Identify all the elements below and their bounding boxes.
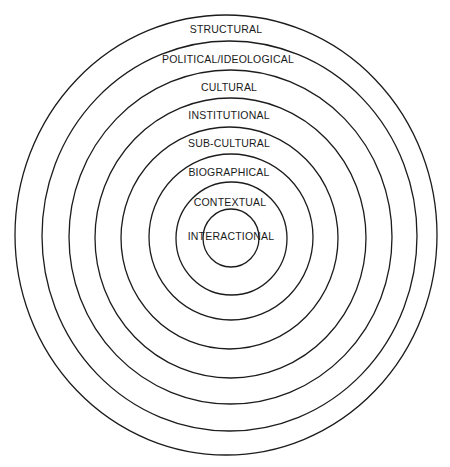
label-interactional: INTERACTIONAL [188, 230, 275, 242]
concentric-layers-diagram: STRUCTURALPOLITICAL/IDEOLOGICALCULTURALI… [0, 0, 450, 467]
label-contextual: CONTEXTUAL [194, 196, 267, 208]
label-structural: STRUCTURAL [190, 23, 263, 35]
label-sub-cultural: SUB-CULTURAL [188, 137, 270, 149]
label-political-ideological: POLITICAL/IDEOLOGICAL [162, 53, 294, 65]
label-biographical: BIOGRAPHICAL [188, 166, 269, 178]
label-institutional: INSTITUTIONAL [188, 109, 269, 121]
label-cultural: CULTURAL [201, 81, 257, 93]
